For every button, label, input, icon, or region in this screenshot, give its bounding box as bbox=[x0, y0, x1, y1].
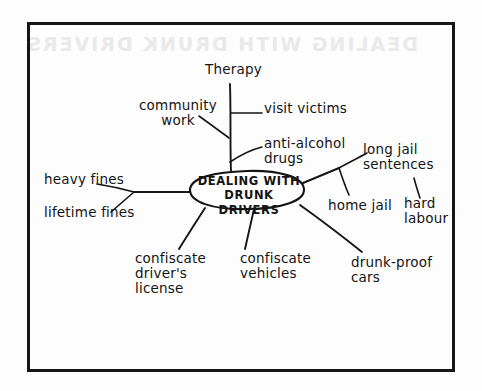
central-node-label: DEALING WITH DRUNK DRIVERS bbox=[196, 174, 302, 217]
label-visit-victims: visit victims bbox=[264, 101, 347, 116]
label-long-jail-sentences: long jail sentences bbox=[363, 142, 434, 172]
label-confiscate-vehicles: confiscate vehicles bbox=[240, 251, 311, 281]
label-therapy: Therapy bbox=[205, 62, 262, 77]
label-anti-alcohol-drugs: anti-alcohol drugs bbox=[264, 136, 345, 166]
branch-line-anti-alcohol-drugs bbox=[230, 147, 262, 162]
label-drunk-proof-cars: drunk-proof cars bbox=[351, 255, 432, 285]
central-node-label-line2: DRUNK DRIVERS bbox=[196, 188, 302, 217]
branch-line-therapy bbox=[230, 84, 231, 171]
label-hard-labour: hard labour bbox=[404, 196, 448, 226]
mindmap-page: DEALING WITH DRUNK DRIVERS DEALING WITH … bbox=[0, 0, 482, 391]
central-node-label-line1: DEALING WITH bbox=[196, 174, 302, 188]
label-heavy-fines: heavy fines bbox=[44, 172, 124, 187]
label-home-jail: home jail bbox=[328, 198, 392, 213]
branch-line-home-jail bbox=[339, 168, 349, 195]
label-confiscate-license: confiscate driver's license bbox=[135, 251, 206, 296]
branch-line-jail-trunk bbox=[303, 168, 339, 183]
label-community-work: community work bbox=[139, 98, 217, 128]
label-lifetime-fines: lifetime fines bbox=[44, 205, 135, 220]
